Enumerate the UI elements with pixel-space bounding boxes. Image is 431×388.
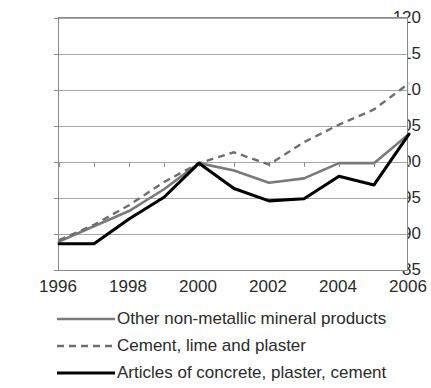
legend-label: Cement, lime and plaster (117, 336, 306, 355)
legend-label: Articles of concrete, plaster, cement (117, 363, 386, 382)
legend-label: Other non-metallic mineral products (117, 309, 386, 328)
plot-area (58, 17, 408, 271)
legend-item-cement-lime-and-plaster: Cement, lime and plaster (55, 332, 421, 359)
chart-legend: Other non-metallic mineral products Ceme… (55, 305, 421, 386)
x-axis-tick-label: 1996 (28, 278, 88, 295)
legend-item-articles-of-concrete-plaster-cement: Articles of concrete, plaster, cement (55, 359, 421, 386)
series-line-articles-of-concrete-plaster-cement (59, 134, 409, 244)
series-line-cement-lime-and-plaster (59, 83, 409, 240)
legend-swatch-solid-black (55, 366, 117, 380)
x-axis-tick-label: 2000 (168, 278, 228, 295)
x-axis-tick-label: 2004 (308, 278, 368, 295)
x-axis-tick-label: 2006 (378, 278, 431, 295)
x-axis-tick-label: 1998 (98, 278, 158, 295)
x-axis-tick-label: 2002 (238, 278, 298, 295)
x-axis-tick (409, 162, 410, 167)
legend-item-other-non-metallic-mineral-products: Other non-metallic mineral products (55, 305, 421, 332)
legend-swatch-dashed-gray (55, 339, 117, 353)
legend-swatch-solid-gray (55, 312, 117, 326)
series-layer (59, 18, 409, 272)
